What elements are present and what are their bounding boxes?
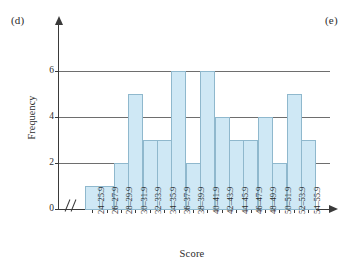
x-tick-mark — [207, 210, 208, 214]
y-tick-label-2: 2 — [40, 157, 54, 169]
y-tick-mark-6 — [55, 71, 59, 72]
y-axis-arrow-icon — [55, 16, 63, 25]
y-axis-title: Frequency — [26, 78, 37, 158]
axis-break-icon — [64, 199, 80, 213]
x-tick-mark — [251, 210, 252, 214]
x-tick-label: 44–45.9 — [240, 152, 250, 214]
y-tick-label-text: 6 — [40, 65, 54, 75]
y-tick-label-text: 0 — [40, 203, 54, 213]
x-tick-label: 26–27.9 — [110, 152, 120, 214]
y-tick-mark-2 — [55, 163, 59, 164]
y-tick-label-0: 0 — [40, 203, 54, 215]
x-tick-label: 30–31.9 — [139, 152, 149, 214]
x-tick-label: 50–51.9 — [283, 152, 293, 214]
x-tick-label: 40–41.9 — [211, 152, 221, 214]
y-tick-label-text: 4 — [40, 111, 54, 121]
x-tick-label: 34–35.9 — [168, 152, 178, 214]
x-tick-mark — [279, 210, 280, 214]
y-tick-mark-4 — [55, 117, 59, 118]
x-tick-mark — [121, 210, 122, 214]
x-axis-title: Score — [160, 248, 224, 259]
x-tick-label: 36–37.9 — [182, 152, 192, 214]
x-tick-mark — [107, 210, 108, 214]
x-tick-mark — [236, 210, 237, 214]
x-tick-mark — [294, 210, 295, 214]
x-tick-label: 52–53.9 — [297, 152, 307, 214]
x-tick-mark — [92, 210, 93, 214]
x-tick-label: 48–49.9 — [268, 152, 278, 214]
x-tick-label: 46–47.9 — [254, 152, 264, 214]
figure-panel-d: (d) (e) 0246 24–25.926–27.928–29.930–31.… — [0, 0, 349, 277]
x-tick-label: 32–33.9 — [153, 152, 163, 214]
x-tick-mark — [135, 210, 136, 214]
x-tick-mark — [150, 210, 151, 214]
x-tick-mark — [222, 210, 223, 214]
histogram-plot: 0246 24–25.926–27.928–29.930–31.932–33.9… — [0, 0, 349, 277]
x-tick-label: 38–39.9 — [196, 152, 206, 214]
x-tick-label: 54–55.9 — [312, 152, 322, 214]
x-axis-arrow-icon — [329, 205, 338, 213]
x-tick-mark — [193, 210, 194, 214]
x-tick-label: 42–43.9 — [225, 152, 235, 214]
y-tick-label-4: 4 — [40, 111, 54, 123]
x-tick-mark — [265, 210, 266, 214]
x-tick-mark — [179, 210, 180, 214]
x-tick-mark — [164, 210, 165, 214]
x-tick-label: 28–29.9 — [124, 152, 134, 214]
y-tick-label-text: 2 — [40, 157, 54, 167]
y-tick-label-6: 6 — [40, 65, 54, 77]
y-tick-mark-0 — [55, 209, 59, 210]
x-tick-label: 24–25.9 — [96, 152, 106, 214]
x-tick-mark — [308, 210, 309, 214]
